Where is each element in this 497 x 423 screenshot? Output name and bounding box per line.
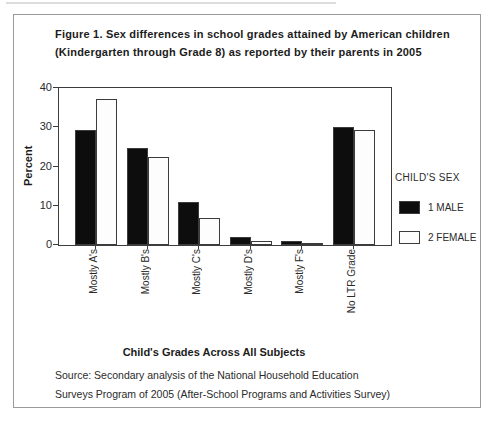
bar-female-mostly-f-s [302,243,323,245]
x-category-label-mostly-c-s: Mostly C's [190,249,203,295]
y-tick-mark-0 [53,244,58,245]
y-tick-label-10: 10 [26,199,52,211]
x-category-label-no-ltr-grade: No LTR Grade [345,249,358,313]
y-tick-label-30: 30 [26,120,52,132]
bar-male-mostly-c-s [178,202,199,245]
bar-male-mostly-d-s [230,237,251,245]
scan-artifact-line [6,2,336,4]
source-line-2: Surveys Program of 2005 (After-School Pr… [55,388,390,400]
legend-entry-female: 2 FEMALE [399,231,476,244]
legend-title: CHILD'S SEX [395,172,460,183]
figure-title-line-1: Figure 1. Sex differences in school grad… [55,25,455,43]
x-category-label-mostly-d-s: Mostly D's [242,249,255,295]
figure-title: Figure 1. Sex differences in school grad… [55,25,455,61]
bar-female-mostly-d-s [251,241,272,245]
x-category-label-mostly-a-s: Mostly A's [87,249,100,294]
x-axis-title: Child's Grades Across All Subjects [53,346,375,358]
x-category-label-mostly-f-s: Mostly F's [293,249,306,294]
y-tick-label-40: 40 [26,81,52,93]
y-tick-label-20: 20 [26,160,52,172]
figure-canvas: Figure 1. Sex differences in school grad… [0,0,497,423]
bar-male-no-ltr-grade [333,127,354,245]
y-tick-mark-10 [53,205,58,206]
bar-female-mostly-b-s [148,157,169,245]
legend-swatch-male [399,201,420,214]
bar-female-no-ltr-grade [354,130,375,245]
bar-male-mostly-a-s [75,130,96,245]
y-tick-mark-20 [53,166,58,167]
y-tick-label-0: 0 [26,238,52,250]
y-tick-mark-40 [53,87,58,88]
legend-label-female: 2 FEMALE [428,232,476,243]
bar-male-mostly-f-s [281,241,302,245]
x-category-label-mostly-b-s: Mostly B's [139,249,152,294]
legend-entry-male: 1 MALE [399,201,464,214]
plot-area [58,87,392,246]
legend-label-male: 1 MALE [428,202,464,213]
legend-swatch-female [399,231,420,244]
bar-male-mostly-b-s [127,148,148,245]
figure-title-line-2: (Kindergarten through Grade 8) as report… [55,43,455,61]
y-tick-mark-30 [53,126,58,127]
bar-female-mostly-c-s [199,218,220,245]
bar-female-mostly-a-s [96,99,117,245]
source-line-1: Source: Secondary analysis of the Nation… [55,369,359,381]
